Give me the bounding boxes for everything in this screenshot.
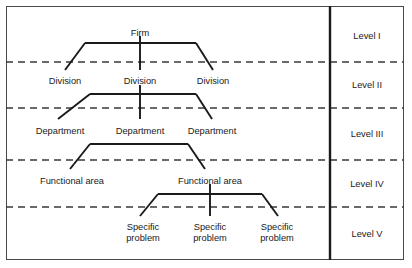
hierarchy-diagram: FirmDivisionDivisionDivisionDepartmentDe…: [0, 0, 412, 268]
bracket-connectors: [58, 36, 278, 216]
node-div3: Division: [197, 76, 230, 87]
node-prob1: Specific problem: [114, 222, 172, 243]
functional-to-problems-leg-right: [262, 194, 278, 216]
level-label-3: Level III: [351, 129, 384, 139]
division-to-departments-leg-left: [58, 94, 90, 119]
node-prob3: Specific problem: [248, 222, 306, 243]
department-to-functional-leg-left: [70, 144, 90, 169]
division-to-departments-leg-right: [196, 94, 212, 119]
level-label-1: Level I: [353, 31, 380, 41]
department-to-functional-leg-right: [188, 144, 205, 169]
node-dept3: Department: [188, 126, 237, 137]
firm-to-divisions-leg-left: [65, 43, 85, 70]
node-func2: Functional area: [178, 176, 242, 187]
node-firm: Firm: [131, 28, 150, 39]
node-func1: Functional area: [40, 176, 104, 187]
node-div1: Division: [49, 76, 82, 87]
node-dept1: Department: [36, 126, 85, 137]
functional-to-problems-leg-left: [140, 194, 158, 216]
level-label-4: Level IV: [350, 179, 384, 189]
firm-to-divisions-leg-right: [196, 43, 213, 70]
node-div2: Division: [124, 76, 157, 87]
level-label-5: Level V: [351, 229, 382, 239]
node-dept2: Department: [116, 126, 165, 137]
node-prob2: Specific problem: [181, 222, 239, 243]
level-label-2: Level II: [352, 80, 382, 90]
